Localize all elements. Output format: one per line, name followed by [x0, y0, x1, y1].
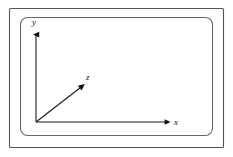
z-axis-label: z	[85, 72, 90, 82]
x-axis-label: x	[173, 117, 178, 127]
coordinate-axes-svg: y z x	[0, 0, 233, 157]
y-axis-label: y	[31, 17, 36, 27]
figure-canvas: y z x	[0, 0, 233, 157]
